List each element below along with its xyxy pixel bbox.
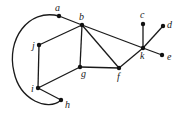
edge-b-j	[39, 25, 82, 45]
node-label-d: d	[167, 19, 173, 30]
node-f	[117, 66, 121, 70]
edge-k-d	[143, 26, 163, 48]
edge-b-g	[80, 25, 82, 67]
edge-i-g	[38, 67, 80, 88]
node-i	[36, 86, 40, 90]
node-a	[57, 14, 61, 18]
node-label-g: g	[81, 68, 86, 79]
node-label-k: k	[140, 50, 145, 61]
node-label-i: i	[31, 83, 34, 94]
edge-a-h-curve	[12, 15, 61, 105]
node-c	[141, 22, 145, 26]
node-label-j: j	[30, 40, 35, 51]
node-label-e: e	[167, 51, 172, 62]
graph-diagram: abcdefghijk	[0, 0, 185, 116]
node-j	[37, 43, 41, 47]
node-label-f: f	[117, 71, 121, 82]
labels: abcdefghijk	[30, 2, 173, 110]
edge-k-e	[143, 48, 162, 55]
node-label-a: a	[55, 2, 60, 13]
edge-j-i	[38, 45, 39, 88]
node-d	[161, 24, 165, 28]
node-label-c: c	[140, 9, 145, 20]
node-h	[59, 98, 63, 102]
node-e	[160, 53, 164, 57]
edge-i-h	[38, 88, 61, 100]
node-b	[80, 23, 84, 27]
node-label-b: b	[79, 11, 84, 22]
nodes	[36, 14, 165, 102]
node-label-h: h	[65, 99, 70, 110]
